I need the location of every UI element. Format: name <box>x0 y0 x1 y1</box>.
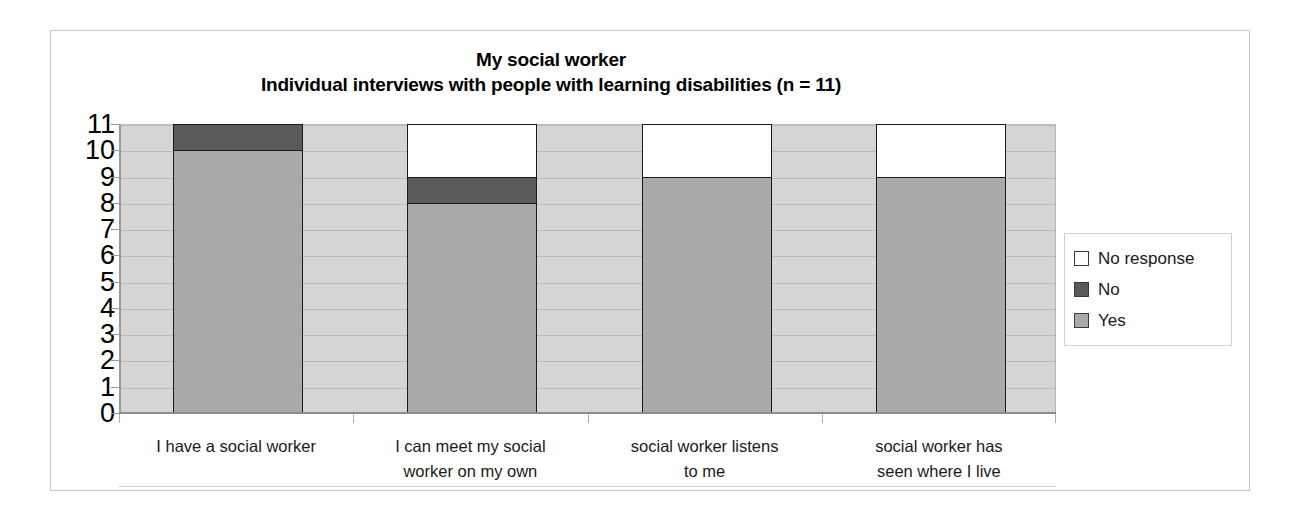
chart-frame: My social worker Individual interviews w… <box>50 30 1250 491</box>
y-axis-tick-mark <box>111 177 119 178</box>
y-axis-tick-mark <box>111 334 119 335</box>
y-axis-tick-label: 10 <box>59 137 115 164</box>
legend-item[interactable]: No <box>1074 274 1221 305</box>
legend-swatch-icon <box>1074 251 1089 266</box>
bar-segment-yes[interactable] <box>173 150 303 413</box>
y-axis-tick-label: 6 <box>59 242 115 269</box>
plot-area <box>119 124 1056 413</box>
chart-title: My social worker Individual interviews w… <box>51 47 1051 97</box>
legend-label: No <box>1098 280 1120 300</box>
y-axis-tick-mark <box>111 282 119 283</box>
category-label-line: I can meet my social <box>353 434 587 459</box>
bar-stack[interactable] <box>173 124 303 413</box>
legend-item[interactable]: Yes <box>1074 305 1221 336</box>
y-axis-labels: 01234567891011 <box>59 124 115 413</box>
bar-stack[interactable] <box>876 124 1006 413</box>
y-axis-tick-mark <box>111 203 119 204</box>
category-tick <box>588 414 589 423</box>
category-axis: I have a social workerI can meet my soci… <box>119 414 1056 492</box>
category-label: social worker listensto me <box>588 434 822 484</box>
category-label-line: seen where I live <box>822 459 1056 484</box>
bar-segment-no[interactable] <box>173 124 303 150</box>
category-label-line: I have a social worker <box>119 434 353 459</box>
y-axis-tick-mark <box>111 124 119 125</box>
y-axis-tick-mark <box>111 150 119 151</box>
y-axis-tick-label: 7 <box>59 216 115 243</box>
y-axis-tick-label: 2 <box>59 347 115 374</box>
y-axis-tick-label: 1 <box>59 373 115 400</box>
bar-segment-no-response[interactable] <box>407 124 537 177</box>
chart-screenshot: My social worker Individual interviews w… <box>0 0 1291 523</box>
category-tick <box>822 414 823 423</box>
category-tick <box>353 414 354 423</box>
y-axis-tick-mark <box>111 255 119 256</box>
bar-segment-yes[interactable] <box>876 177 1006 413</box>
legend-swatch-icon <box>1074 313 1089 328</box>
category-label-line: to me <box>588 459 822 484</box>
category-label: I have a social worker <box>119 434 353 459</box>
category-axis-underline <box>119 486 1056 487</box>
bar-stack[interactable] <box>642 124 772 413</box>
legend-label: Yes <box>1098 311 1126 331</box>
category-label: I can meet my socialworker on my own <box>353 434 587 484</box>
y-axis-tick-mark <box>111 413 119 414</box>
category-label-line: social worker listens <box>588 434 822 459</box>
bar-segment-no-response[interactable] <box>642 124 772 177</box>
category-label-line: social worker has <box>822 434 1056 459</box>
category-label: social worker hasseen where I live <box>822 434 1056 484</box>
chart-title-line-2: Individual interviews with people with l… <box>51 72 1051 97</box>
y-axis-tick-label: 4 <box>59 294 115 321</box>
y-axis-tick-mark <box>111 308 119 309</box>
y-axis-tick-label: 8 <box>59 189 115 216</box>
category-tick <box>119 414 120 423</box>
y-axis-tick-mark <box>111 387 119 388</box>
y-axis-tick-label: 3 <box>59 321 115 348</box>
legend-swatch-icon <box>1074 282 1089 297</box>
y-axis-tick-label: 11 <box>59 111 115 138</box>
category-tick <box>1055 414 1056 423</box>
bar-segment-yes[interactable] <box>642 177 772 413</box>
y-axis-tick-mark <box>111 360 119 361</box>
y-axis-tick-label: 5 <box>59 268 115 295</box>
y-axis-tick-label: 9 <box>59 163 115 190</box>
y-axis-tick-label: 0 <box>59 400 115 427</box>
chart-legend: No responseNoYes <box>1064 233 1232 346</box>
bar-segment-no[interactable] <box>407 177 537 203</box>
category-label-line: worker on my own <box>353 459 587 484</box>
bar-stack[interactable] <box>407 124 537 413</box>
chart-title-line-1: My social worker <box>51 47 1051 72</box>
legend-label: No response <box>1098 249 1194 269</box>
bar-segment-no-response[interactable] <box>876 124 1006 177</box>
bar-segment-yes[interactable] <box>407 203 537 413</box>
legend-item[interactable]: No response <box>1074 243 1221 274</box>
y-axis-tick-mark <box>111 229 119 230</box>
